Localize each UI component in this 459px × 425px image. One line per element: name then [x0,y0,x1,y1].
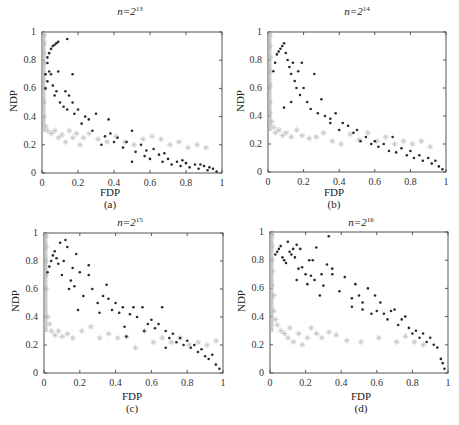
dot-marker [46,56,49,59]
dot-marker [391,136,394,139]
dot-marker [331,267,334,270]
star-marker [333,332,339,338]
dot-marker [59,242,62,245]
dot-marker [294,256,297,259]
star-marker [274,322,280,328]
dot-marker [292,62,295,65]
dot-marker [87,264,90,267]
dot-marker [52,84,55,87]
dot-marker [59,101,62,104]
star-marker [149,133,155,139]
x-tick-label: 0.8 [404,176,417,187]
star-marker [394,339,400,345]
dot-marker [50,260,53,263]
star-marker [279,133,285,139]
dot-marker [272,70,275,73]
dot-marker [199,163,202,166]
dot-marker [409,150,412,153]
x-tick-label: 0.2 [299,377,312,388]
dot-marker [283,106,286,109]
dot-marker [95,112,98,115]
dot-marker [306,283,309,286]
star-marker [86,131,92,137]
dot-marker [388,150,391,153]
dot-marker [374,294,377,297]
dot-marker [73,112,76,115]
dot-marker [179,165,182,168]
star-marker [401,138,407,144]
dot-marker [64,239,67,242]
dot-marker [429,336,432,339]
dot-marker [293,80,296,83]
star-marker [285,335,291,341]
star-marker [70,335,76,341]
dot-marker [404,315,407,318]
y-tick-label: 0.4 [26,311,39,322]
dot-marker [338,290,341,293]
x-tick-label: 0.2 [72,177,85,188]
y-tick-label: 0.4 [250,110,263,121]
dot-marker [411,332,414,335]
dot-marker [297,70,300,73]
x-tick-label: 0.8 [406,377,419,388]
dot-marker [352,132,355,135]
dot-marker [347,125,350,128]
dot-marker [57,263,60,266]
dot-marker [295,87,298,90]
x-tick-label: 0 [268,377,273,388]
dot-marker [109,132,112,135]
y-tick-label: 0.2 [252,339,265,350]
x-tick-label: 1 [446,377,451,388]
star-marker [56,328,62,334]
dot-marker [131,129,134,132]
dot-marker [46,80,49,83]
star-marker [167,142,173,148]
star-marker [59,132,65,138]
star-marker [115,335,121,341]
dot-marker [71,73,74,76]
dot-marker [175,341,178,344]
dot-marker [62,260,65,263]
dot-marker [295,243,298,246]
star-marker [185,145,191,151]
star-marker [63,139,69,145]
dot-marker [276,53,279,56]
dot-marker [140,144,143,147]
star-marker [278,328,284,334]
star-marker [281,331,287,337]
dot-marker [46,271,49,274]
dot-marker [62,105,65,108]
star-marker [299,133,305,139]
y-tick-label: 0.2 [24,139,37,150]
dot-marker [319,294,322,297]
dot-marker [68,288,71,291]
scatter-plot: 00.20.40.60.8100.20.40.60.81 [0,0,229,212]
dot-marker [390,310,393,313]
dot-marker [66,38,69,41]
dot-marker [361,301,364,304]
x-axis-label: FDP [112,390,152,402]
dot-marker [430,162,433,165]
dot-marker [200,348,203,351]
dot-marker [50,73,53,76]
plot-frame [44,233,223,373]
dot-marker [70,279,73,282]
dot-marker [114,302,117,305]
dot-marker [100,144,103,147]
y-tick-label: 0.8 [26,255,39,266]
dot-marker [320,98,323,101]
star-marker [79,328,85,334]
dot-marker [102,295,105,298]
star-marker [158,136,164,142]
dot-marker [313,73,316,76]
dot-marker [351,305,354,308]
dot-marker [299,248,302,251]
dot-marker [75,253,78,256]
dot-marker [434,160,437,163]
dot-marker [382,143,385,146]
dot-marker [288,66,291,69]
y-tick-label: 0.6 [250,82,263,93]
dot-marker [438,165,441,168]
y-axis-label: NDP [7,86,19,116]
dot-marker [327,235,330,238]
